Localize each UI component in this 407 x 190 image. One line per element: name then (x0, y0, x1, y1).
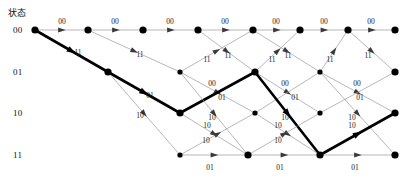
trellis-node (176, 109, 183, 116)
edge-label: 00 (320, 17, 328, 26)
edge-label: 11 (203, 55, 210, 64)
edge-arrow-icon (352, 131, 362, 138)
edge-label: 11 (268, 55, 275, 64)
trellis-node (344, 26, 351, 33)
edge-label: 10 (348, 113, 356, 122)
edge-label: 11 (326, 55, 333, 64)
edge-arrow-icon (211, 152, 219, 157)
edge-label: 01 (291, 93, 299, 102)
edge-label-layer: 0000000000000011111111111111110101010100… (58, 17, 375, 172)
edge-label: 10 (274, 121, 282, 130)
trellis-node (194, 26, 201, 33)
edge-arrow-icon (212, 49, 220, 55)
edge-label: 00 (272, 17, 280, 26)
edge-label: 00 (281, 79, 289, 88)
edge-arrow-icon (112, 27, 120, 32)
edge-label: 10 (136, 111, 144, 120)
edge-label: 01 (356, 93, 364, 102)
edge-label: 01 (351, 163, 359, 172)
edge-label: 00 (221, 17, 229, 26)
edge-label: 11 (74, 48, 81, 57)
edge-arrow-icon (222, 27, 230, 32)
trellis-node (251, 68, 258, 75)
trellis-node (244, 151, 251, 158)
trellis-node (252, 110, 257, 115)
edge-label: 10 (208, 113, 216, 122)
edge-arrow-icon (368, 27, 376, 32)
edge-label: 11 (224, 51, 231, 60)
trellis-node (317, 69, 322, 74)
edge-label: 01 (206, 163, 214, 172)
trellis-node (104, 68, 111, 75)
trellis-node (139, 26, 146, 33)
trellis-node (296, 26, 303, 33)
edge-arrow-icon (167, 27, 175, 32)
trellis-node (391, 26, 398, 33)
edge-label: 01 (146, 91, 154, 100)
trellis-node (31, 26, 38, 33)
trellis-node (391, 68, 398, 75)
trellis-node (391, 109, 398, 116)
edge-label: 00 (367, 17, 375, 26)
edge-label: 01 (218, 93, 226, 102)
edge-label: 00 (111, 17, 119, 26)
trellis-node (249, 26, 256, 33)
edge-label: 11 (136, 50, 143, 59)
trellis-svg: 0000000000000011111111111111110101010100… (0, 0, 407, 190)
edge-label: 01 (276, 163, 284, 172)
edge-arrow-icon (354, 152, 362, 157)
edge-layer (35, 27, 395, 157)
edge-arrow-icon (58, 27, 66, 32)
edge-label: 11 (364, 51, 371, 60)
edge-label: 10 (281, 113, 289, 122)
edge-label: 00 (208, 79, 216, 88)
trellis-node (391, 151, 398, 158)
trellis-diagram: 状态 00 01 10 11 0000000000000011111111111… (0, 0, 407, 190)
edge-arrow-icon (321, 27, 329, 32)
edge-label: 10 (203, 121, 211, 130)
trellis-node (316, 151, 323, 158)
edge-label: 10 (274, 136, 282, 145)
trellis-node (317, 110, 322, 115)
edge-label: 10 (348, 121, 356, 130)
edge-arrow-icon (283, 89, 291, 95)
edge-label: 00 (58, 17, 66, 26)
edge-label: 00 (166, 17, 174, 26)
edge-arrow-icon (273, 27, 281, 32)
trellis-node (177, 152, 182, 157)
edge-label: 11 (284, 51, 291, 60)
edge-label: 00 (353, 79, 361, 88)
trellis-node (177, 69, 182, 74)
trellis-node (84, 26, 91, 33)
edge-label: 10 (202, 136, 210, 145)
edge-arrow-icon (281, 152, 289, 157)
